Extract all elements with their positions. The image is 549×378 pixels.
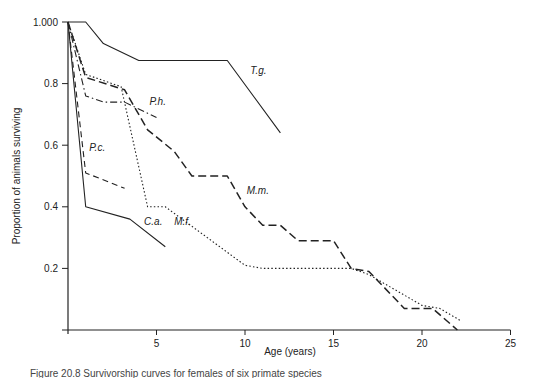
y-tick-label: 0.6 [44, 140, 58, 151]
survivorship-chart: 0.20.40.60.81.000510152025 T.g.C.a.P.c.P… [0, 0, 549, 378]
series-label-pc: P.c. [89, 142, 105, 153]
series-label-mm: M.m. [247, 185, 269, 196]
y-tick-label: 1.000 [33, 17, 58, 28]
y-axis-title: Proportion of animals surviving [11, 108, 22, 245]
series-label-ca: C.a. [144, 216, 162, 227]
y-tick-label: 0.4 [44, 201, 58, 212]
y-tick-label: 0.2 [44, 263, 58, 274]
series-line-ca [68, 22, 165, 247]
x-tick-label: 15 [328, 338, 340, 349]
y-tick-label: 0.8 [44, 78, 58, 89]
x-tick-label: 10 [239, 338, 251, 349]
series-labels: T.g.C.a.P.c.P.h.M.m.M.f. [89, 65, 269, 227]
x-tick-label: 5 [154, 338, 160, 349]
x-tick-label: 20 [416, 338, 428, 349]
series-label-tg: T.g. [250, 65, 266, 76]
figure-caption: Figure 20.8 Survivorship curves for fema… [30, 368, 549, 378]
series-label-ph: P.h. [149, 96, 166, 107]
series-label-mf: M.f. [174, 216, 191, 227]
series-line-tg [68, 22, 280, 133]
series-line-ph [68, 22, 157, 118]
x-tick-label: 25 [505, 338, 517, 349]
x-axis-title: Age (years) [264, 346, 316, 357]
axes: 0.20.40.60.81.000510152025 [33, 17, 517, 350]
